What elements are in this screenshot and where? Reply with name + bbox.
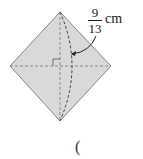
answer-blank[interactable]: (	[75, 138, 80, 156]
fraction-numerator: 9	[88, 6, 102, 19]
fraction-denominator: 13	[88, 22, 102, 35]
unit-label: cm	[105, 11, 122, 27]
length-label: 9 13	[88, 6, 102, 35]
